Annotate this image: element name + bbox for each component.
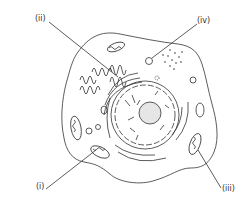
mitochondrion-top <box>106 40 126 54</box>
mitochondrion-i <box>89 143 111 161</box>
centrosome <box>155 76 159 80</box>
vesicle-iv <box>146 58 153 65</box>
leader-iii <box>198 150 221 188</box>
rough-er <box>80 68 112 94</box>
mitochondrion-iii <box>187 132 204 156</box>
mitochondrion-right <box>196 103 204 117</box>
vesicle <box>86 128 92 134</box>
nucleolus <box>139 102 161 124</box>
label-iii: (iii) <box>222 184 235 193</box>
leader-i <box>46 150 96 189</box>
cell-diagram <box>0 0 246 207</box>
vesicle <box>96 125 101 130</box>
label-ii: (ii) <box>35 14 46 23</box>
vesicle <box>190 77 196 83</box>
label-iv: (iv) <box>197 16 210 25</box>
mitochondrion-left <box>69 115 83 140</box>
label-i: (i) <box>36 182 44 191</box>
